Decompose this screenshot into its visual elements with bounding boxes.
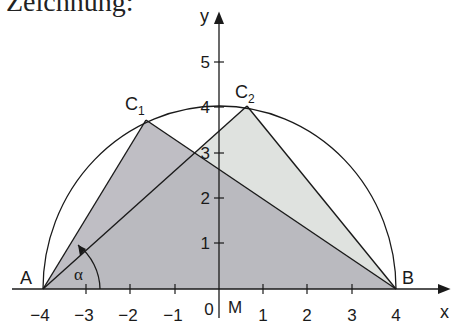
x-tick-label: 1 — [258, 306, 267, 325]
x-tick-label: −1 — [163, 306, 182, 325]
y-tick-label: 1 — [201, 234, 210, 253]
svg-text:1: 1 — [138, 104, 145, 118]
angle-label-alpha: α — [74, 265, 83, 284]
origin-label: 0 — [204, 300, 213, 319]
svg-text:2: 2 — [248, 92, 255, 106]
point-label-c1: C 1 — [125, 94, 145, 118]
point-label-c2: C 2 — [235, 82, 255, 106]
y-tick-label: 5 — [201, 53, 210, 72]
geometry-diagram: −4 −3 −2 −1 0 1 2 3 4 M 1 2 3 4 5 x y A … — [0, 0, 462, 328]
y-axis-label: y — [200, 6, 209, 26]
svg-text:C: C — [125, 94, 138, 114]
x-tick-label: 2 — [302, 306, 311, 325]
y-tick-label: 2 — [201, 189, 210, 208]
x-axis-label: x — [440, 302, 449, 322]
x-tick-label: −4 — [30, 306, 49, 325]
x-tick-label: 4 — [391, 306, 400, 325]
x-tick-label: −2 — [118, 306, 137, 325]
y-tick-label: 4 — [201, 98, 210, 117]
center-label-m: M — [228, 298, 242, 317]
x-tick-label: −3 — [74, 306, 93, 325]
point-label-b: B — [402, 268, 414, 288]
y-tick-label: 3 — [201, 144, 210, 163]
svg-text:C: C — [235, 82, 248, 102]
x-tick-label: 3 — [347, 306, 356, 325]
point-label-a: A — [20, 268, 32, 288]
